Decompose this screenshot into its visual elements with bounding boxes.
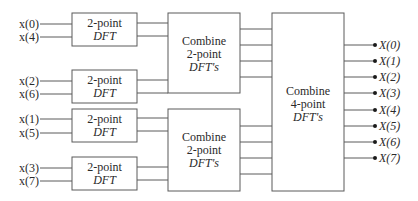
output-label: X(6) [378, 135, 400, 149]
block-label: DFT [92, 173, 117, 187]
input-label: x(5) [19, 126, 39, 140]
block-label: 2-point [187, 143, 222, 157]
output-node-icon [373, 108, 377, 112]
output-node-icon [373, 43, 377, 47]
output-node-icon [373, 91, 377, 95]
fft-block-diagram: x(0) x(4) x(2) x(6) x(1) x(5) x(3) x(7) … [0, 0, 418, 201]
block-label: DFT [92, 29, 117, 43]
block-label: Combine [182, 34, 226, 48]
block-label: DFT [92, 125, 117, 139]
block-label: 2-point [87, 160, 122, 174]
input-label: x(7) [19, 174, 39, 188]
stage1-blocks: 2-point DFT 2-point DFT 2-point DFT 2-po… [72, 13, 137, 190]
output-label: X(4) [378, 103, 400, 117]
stage3-outputs: X(0) X(1) X(2) X(3) X(4) X(5) X(6) X(7) [344, 38, 400, 165]
block-label: 2-point [187, 47, 222, 61]
output-label: X(7) [378, 151, 400, 165]
output-node-icon [373, 75, 377, 79]
input-label: x(6) [19, 87, 39, 101]
input-label: x(1) [19, 112, 39, 126]
stage2-to-stage3-wires [240, 29, 272, 174]
block-label: DFT's [292, 110, 323, 124]
block-label: Combine [182, 130, 226, 144]
input-label: x(0) [19, 17, 39, 31]
stage1-to-stage2-wires [137, 23, 168, 180]
block-label: Combine [286, 84, 330, 98]
output-node-icon [373, 124, 377, 128]
block-label: DFT's [188, 156, 219, 170]
stage1-inputs: x(0) x(4) x(2) x(6) x(1) x(5) x(3) x(7) [19, 17, 72, 188]
block-label: 2-point [87, 112, 122, 126]
stage2-blocks: Combine 2-point DFT's Combine 2-point DF… [168, 13, 240, 191]
block-label: 2-point [87, 16, 122, 30]
output-label: X(3) [378, 86, 400, 100]
input-label: x(4) [19, 30, 39, 44]
block-label: DFT's [188, 60, 219, 74]
input-label: x(2) [19, 74, 39, 88]
block-label: 4-point [291, 97, 326, 111]
block-label: DFT [92, 86, 117, 100]
output-label: X(0) [378, 38, 400, 52]
stage3-block: Combine 4-point DFT's [272, 13, 344, 191]
output-label: X(2) [378, 70, 400, 84]
output-label: X(1) [378, 54, 400, 68]
input-label: x(3) [19, 161, 39, 175]
block-label: 2-point [87, 73, 122, 87]
output-node-icon [373, 140, 377, 144]
output-label: X(5) [378, 119, 400, 133]
output-node-icon [373, 156, 377, 160]
output-node-icon [373, 59, 377, 63]
